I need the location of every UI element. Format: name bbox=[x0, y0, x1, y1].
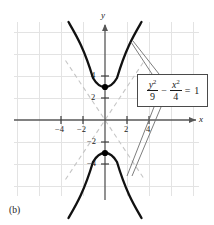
x-tick-label-minus-4: −4 bbox=[55, 124, 64, 134]
hyperbola-figure: y2 9 − x2 4 = 1 −4 −2 2 4 4 2 −2 −4 x y … bbox=[0, 0, 214, 225]
x-tick-label-2: 2 bbox=[124, 124, 128, 134]
axes bbox=[14, 25, 196, 200]
equation-right-side: 1 bbox=[194, 86, 199, 96]
equals-sign: = bbox=[185, 86, 191, 96]
plot-canvas bbox=[0, 0, 214, 225]
x-tick-label-4: 4 bbox=[146, 124, 150, 134]
panel-caption: (b) bbox=[9, 205, 20, 215]
y-tick-label-4: 4 bbox=[91, 70, 95, 80]
y-axis-arrow bbox=[102, 24, 108, 31]
equation-callout-box: y2 9 − x2 4 = 1 bbox=[137, 74, 208, 107]
y-axis-label: y bbox=[101, 10, 105, 20]
fraction-numerator-y: y2 bbox=[147, 79, 159, 92]
fraction-numerator-x: x2 bbox=[170, 79, 182, 92]
callout-leader-lines bbox=[127, 41, 161, 176]
y-tick-label-minus-2: −2 bbox=[87, 136, 96, 146]
vertex-top-marker bbox=[102, 84, 108, 90]
vertex-bottom-marker bbox=[102, 150, 108, 156]
grid bbox=[14, 22, 199, 196]
x-tick-label-minus-2: −2 bbox=[77, 124, 86, 134]
fraction-denominator-4: 4 bbox=[171, 91, 180, 103]
x-axis-label: x bbox=[199, 114, 203, 124]
fraction-x-squared-over-4: x2 4 bbox=[170, 79, 182, 103]
y-tick-label-minus-4: −4 bbox=[87, 158, 96, 168]
minus-operator: − bbox=[161, 86, 167, 96]
y-tick-label-2: 2 bbox=[91, 92, 95, 102]
fraction-denominator-9: 9 bbox=[148, 91, 157, 103]
equation-expression: y2 9 − x2 4 = 1 bbox=[146, 79, 200, 103]
fraction-y-squared-over-9: y2 9 bbox=[147, 79, 159, 103]
leader-upper-b bbox=[133, 41, 159, 74]
